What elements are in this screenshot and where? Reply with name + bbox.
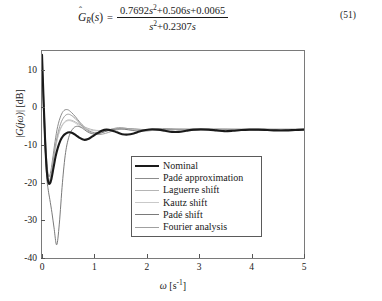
x-tick-mark xyxy=(147,254,148,258)
y-tick-mark xyxy=(41,107,45,108)
x-tick-label: 1 xyxy=(79,262,109,272)
y-tick-label: -20 xyxy=(0,178,37,188)
y-tick-label: 10 xyxy=(0,65,37,75)
y-axis-label-arg: (jω) xyxy=(14,112,25,129)
legend-item[interactable]: Padé shift xyxy=(135,209,259,221)
legend-item[interactable]: Nominal xyxy=(135,160,259,172)
figure-bode-magnitude: |G(jω)| [dB] ω [s-1] 100-10-20-30-40 012… xyxy=(0,40,382,301)
equation-denominator: s2+0.2307s xyxy=(146,18,199,32)
equation-numerator: 0.7692s2+0.506s+0.0065 xyxy=(117,3,228,17)
equation-number: (51) xyxy=(340,10,356,20)
equation-block: ˆGR(s) = 0.7692s2+0.506s+0.0065 s2+0.230… xyxy=(0,0,382,40)
y-axis-label-bar-open: | xyxy=(14,136,25,138)
y-tick-mark xyxy=(41,220,45,221)
equation-lhs: ˆGR(s) xyxy=(78,11,103,25)
hat-accent-icon: ˆ xyxy=(79,6,82,15)
legend-item-label: Fourier analysis xyxy=(163,222,227,232)
y-tick-label: -30 xyxy=(0,215,37,225)
legend-item-label: Padé shift xyxy=(163,210,203,220)
x-tick-mark xyxy=(304,254,305,258)
y-tick-label: -10 xyxy=(0,140,37,150)
x-tick-label: 2 xyxy=(132,262,162,272)
x-tick-mark xyxy=(42,254,43,258)
y-tick-mark xyxy=(41,145,45,146)
x-axis-label-symbol: ω xyxy=(160,280,167,291)
equation-fraction: 0.7692s2+0.506s+0.0065 s2+0.2307s xyxy=(117,3,228,32)
legend-box: NominalPadé approximationLaguerre shiftK… xyxy=(131,156,262,237)
x-tick-mark xyxy=(199,254,200,258)
equals-sign: = xyxy=(107,12,113,23)
legend-line-swatch-icon xyxy=(135,190,159,191)
y-tick-mark xyxy=(41,258,45,259)
y-tick-mark xyxy=(41,70,45,71)
x-axis-label: ω [s-1] xyxy=(41,278,305,291)
x-tick-label: 4 xyxy=(237,262,267,272)
legend-item[interactable]: Fourier analysis xyxy=(135,221,259,233)
x-tick-label: 0 xyxy=(27,262,57,272)
x-tick-mark xyxy=(252,254,253,258)
y-tick-label: 0 xyxy=(0,102,37,112)
legend-line-swatch-icon xyxy=(135,202,159,203)
equation-lhs-paren-close: ) xyxy=(99,11,103,23)
x-tick-mark xyxy=(94,254,95,258)
denominator-coef-2: 0.2307 xyxy=(163,21,192,32)
x-tick-label: 3 xyxy=(184,262,214,272)
denominator-var-2: s xyxy=(192,21,196,32)
legend-item[interactable]: Kautz shift xyxy=(135,197,259,209)
legend-item-label: Kautz shift xyxy=(163,198,207,208)
x-tick-label: 5 xyxy=(289,262,319,272)
legend-line-swatch-icon xyxy=(135,178,159,179)
legend-item[interactable]: Padé approximation xyxy=(135,172,259,184)
x-axis-label-units-open: [s xyxy=(169,280,176,291)
legend-line-swatch-icon xyxy=(135,214,159,215)
legend-line-swatch-icon xyxy=(135,227,159,228)
legend-item-label: Padé approximation xyxy=(163,173,243,183)
y-tick-mark xyxy=(41,183,45,184)
numerator-coef-3: 0.0065 xyxy=(196,5,225,16)
legend-item-label: Nominal xyxy=(163,161,198,171)
legend-item[interactable]: Laguerre shift xyxy=(135,184,259,196)
numerator-coef-1: 0.7692 xyxy=(120,5,149,16)
legend-line-swatch-icon xyxy=(135,165,159,167)
numerator-coef-2: 0.506 xyxy=(163,5,187,16)
x-axis-label-units-close: ] xyxy=(183,280,186,291)
y-axis-label-g: G xyxy=(14,129,25,136)
equation-expression: ˆGR(s) = 0.7692s2+0.506s+0.0065 s2+0.230… xyxy=(78,3,228,32)
legend-item-label: Laguerre shift xyxy=(163,185,219,195)
